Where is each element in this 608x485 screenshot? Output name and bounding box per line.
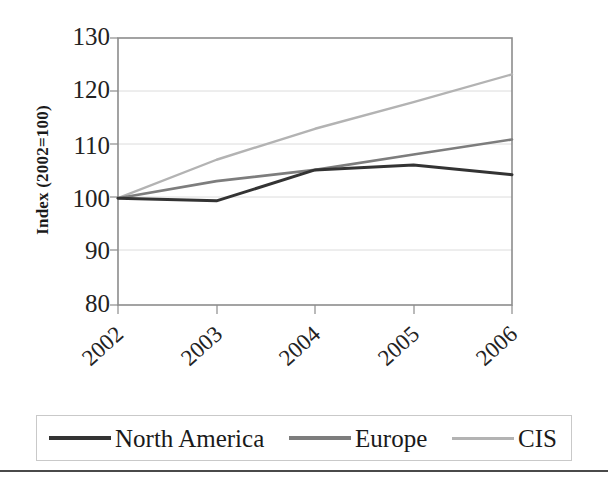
legend-swatch-cis bbox=[452, 437, 514, 440]
y-tick-marks bbox=[110, 38, 118, 305]
legend-swatch-europe bbox=[289, 436, 351, 440]
figure: Index (2002=100) 130 120 110 100 90 80 bbox=[0, 0, 608, 485]
series-line-north-america bbox=[118, 165, 512, 201]
legend-item-north-america: North America bbox=[49, 426, 264, 451]
legend-item-cis: CIS bbox=[452, 426, 557, 451]
legend-label-europe: Europe bbox=[355, 426, 427, 451]
chart-area: Index (2002=100) 130 120 110 100 90 80 bbox=[0, 0, 608, 400]
bottom-divider bbox=[0, 470, 608, 472]
legend-swatch-north-america bbox=[49, 436, 111, 440]
legend-label-cis: CIS bbox=[518, 426, 557, 451]
legend-label-north-america: North America bbox=[115, 426, 264, 451]
series-line-cis bbox=[118, 74, 512, 198]
x-tick-marks bbox=[118, 305, 512, 314]
chart-legend: North America Europe CIS bbox=[36, 415, 572, 461]
plot-border bbox=[118, 38, 512, 305]
legend-item-europe: Europe bbox=[289, 426, 427, 451]
